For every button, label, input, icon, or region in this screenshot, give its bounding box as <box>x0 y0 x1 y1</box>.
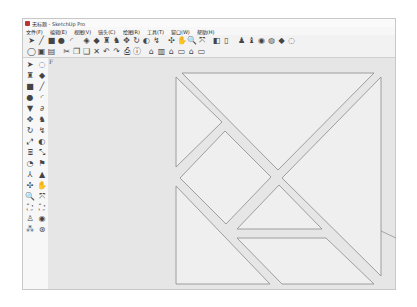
tangram-model[interactable] <box>0 0 417 307</box>
axis-line <box>381 231 396 238</box>
